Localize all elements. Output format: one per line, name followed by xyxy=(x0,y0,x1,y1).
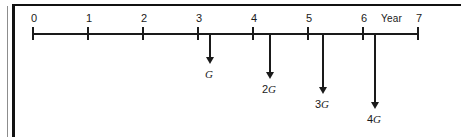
arrow-head-down-icon xyxy=(206,57,214,64)
axis-tick-label-3: 3 xyxy=(187,12,211,24)
page-frame-hairline xyxy=(7,6,8,137)
cash-flow-label-year-6: 3G xyxy=(292,98,352,110)
arrow-head-down-icon xyxy=(371,102,379,109)
arrow-shaft xyxy=(374,34,376,104)
axis-tick-label-7: 7 xyxy=(407,12,431,24)
axis-tick-2 xyxy=(142,27,144,40)
axis-tick-label-4: 4 xyxy=(242,12,266,24)
axis-tick-7 xyxy=(417,27,419,40)
axis-tick-label-1: 1 xyxy=(77,12,101,24)
arrow-head-down-icon xyxy=(319,87,327,94)
axis-tick-label-2: 2 xyxy=(132,12,156,24)
cash-flow-symbol: G xyxy=(268,83,276,95)
arrow-shaft xyxy=(322,34,324,89)
cash-flow-symbol: G xyxy=(321,98,329,110)
page-frame-top-rule xyxy=(12,4,461,6)
arrow-head-down-icon xyxy=(266,72,274,79)
cash-flow-label-year-4: G xyxy=(179,68,239,80)
cash-flow-label-year-5: 2G xyxy=(239,83,299,95)
axis-tick-1 xyxy=(87,27,89,40)
page-frame-left-rule xyxy=(12,4,15,137)
figure-canvas: 01234567 Year G2G3G4G xyxy=(0,0,461,137)
axis-tick-label-0: 0 xyxy=(22,12,46,24)
axis-tick-5 xyxy=(307,27,309,40)
arrow-shaft xyxy=(269,34,271,74)
arrow-shaft xyxy=(209,34,211,59)
timeline-axis-line xyxy=(33,33,418,35)
axis-tick-0 xyxy=(32,27,34,40)
axis-tick-4 xyxy=(252,27,254,40)
axis-tick-6 xyxy=(362,27,364,40)
axis-title-year: Year xyxy=(381,13,402,25)
axis-tick-3 xyxy=(197,27,199,40)
axis-tick-label-5: 5 xyxy=(297,12,321,24)
cash-flow-label-year-7: 4G xyxy=(344,113,404,125)
cash-flow-symbol: G xyxy=(205,68,213,80)
cash-flow-symbol: G xyxy=(373,113,381,125)
axis-tick-label-6: 6 xyxy=(352,12,376,24)
